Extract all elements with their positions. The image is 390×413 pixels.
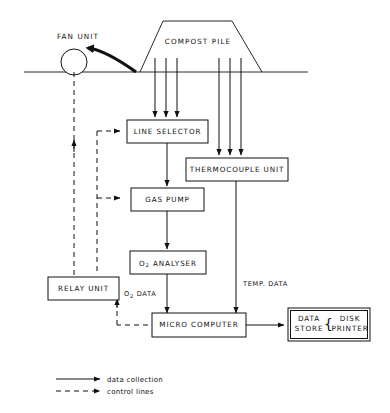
data-store-label-line4: PRINTER [331, 324, 368, 333]
box-relay-unit-label: RELAY UNIT [58, 284, 109, 293]
box-line-selector-label: LINE SELECTOR [134, 127, 202, 136]
temperature-probe-lines [219, 58, 241, 155]
legend-label-data-collection: data collection [107, 376, 163, 384]
legend-label-control-lines: control lines [107, 388, 154, 396]
box-data-store[interactable]: DATA STORE { DISK PRINTER [288, 308, 370, 341]
temp-data-label: TEMP. DATA [242, 280, 288, 288]
legend: data collection control lines [56, 376, 163, 396]
box-line-selector[interactable]: LINE SELECTOR [127, 120, 208, 143]
compost-monitoring-diagram: LINE SELECTOR THERMOCOUPLE UNIT GAS PUMP… [0, 0, 390, 413]
box-thermocouple-unit[interactable]: THERMOCOUPLE UNIT [186, 158, 288, 181]
box-o2-analyser[interactable]: O2 ANALYSER [130, 251, 206, 274]
fan-unit-icon [61, 49, 87, 75]
box-gas-pump-label: GAS PUMP [145, 195, 190, 204]
data-store-label-line3: DISK [340, 314, 361, 323]
o2-analyser-label-rest: ANALYSER [150, 258, 197, 267]
data-store-label-line2: STORE [295, 324, 324, 333]
compost-pile-shape [140, 21, 262, 72]
box-micro-computer[interactable]: MICRO COMPUTER [152, 313, 246, 337]
fan-airflow-arrow-icon [88, 48, 136, 72]
box-gas-pump[interactable]: GAS PUMP [131, 188, 204, 211]
legend-item-control-lines: control lines [56, 388, 154, 396]
gas-probe-lines [155, 58, 177, 117]
legend-item-data-collection: data collection [56, 376, 163, 384]
compost-pile-label: COMPOST PILE [165, 37, 231, 46]
data-store-label-line1: DATA [298, 314, 320, 323]
o2-data-rest: DATA [134, 290, 157, 298]
o2-data-label: O2 DATA [124, 290, 157, 299]
box-relay-unit[interactable]: RELAY UNIT [48, 277, 119, 300]
fan-unit-label: FAN UNIT [57, 32, 99, 41]
box-micro-computer-label: MICRO COMPUTER [159, 320, 238, 329]
box-thermocouple-unit-label: THERMOCOUPLE UNIT [189, 165, 285, 174]
